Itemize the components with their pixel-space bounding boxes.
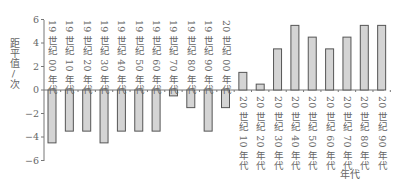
category-label: 19 世纪 00 年代 xyxy=(47,20,57,95)
category-label: 19 世纪 50 年代 xyxy=(134,20,144,95)
bar xyxy=(135,90,143,131)
category-label: 19 世纪 80 年代 xyxy=(186,20,196,95)
category-label: 20 世纪 80 年代 xyxy=(359,96,369,171)
category-label: 19 世纪 10 年代 xyxy=(64,20,74,95)
bar xyxy=(291,25,299,90)
category-label: 20 世纪 00 年代 xyxy=(221,20,231,95)
category-label: 20 世纪 20 年代 xyxy=(255,96,265,171)
bar xyxy=(378,25,386,90)
bar xyxy=(256,84,264,90)
bar xyxy=(274,49,282,90)
category-label: 20 世纪 60 年代 xyxy=(325,96,335,171)
y-tick-label: −2 xyxy=(15,108,39,119)
y-tick-label: 2 xyxy=(15,61,39,72)
chart xyxy=(0,0,396,188)
bar xyxy=(152,90,160,131)
category-label: 20 世纪 90 年代 xyxy=(377,96,387,171)
category-label: 19 世纪 20 年代 xyxy=(82,20,92,95)
bar xyxy=(326,49,334,90)
category-label: 20 世纪 50 年代 xyxy=(307,96,317,171)
category-label: 19 世纪 90 年代 xyxy=(203,20,213,95)
category-label: 20 世纪 10 年代 xyxy=(238,96,248,171)
bar xyxy=(204,90,212,131)
bar xyxy=(308,37,316,90)
y-tick-label: 4 xyxy=(15,37,39,48)
y-tick-label: 0 xyxy=(15,84,39,95)
category-label: 19 世纪 30 年代 xyxy=(99,20,109,95)
category-label: 20 世纪 70 年代 xyxy=(342,96,352,171)
category-label: 19 世纪 40 年代 xyxy=(116,20,126,95)
bar xyxy=(100,90,108,143)
category-label: 19 世纪 60 年代 xyxy=(151,20,161,95)
y-tick-label: −4 xyxy=(15,131,39,142)
bar xyxy=(48,90,56,143)
bar xyxy=(65,90,73,131)
bar xyxy=(239,72,247,90)
bar xyxy=(343,37,351,90)
y-tick-label: −6 xyxy=(15,155,39,166)
category-label: 19 世纪 70 年代 xyxy=(168,20,178,95)
bar xyxy=(360,25,368,90)
axes xyxy=(41,20,390,162)
category-label: 20 世纪 30 年代 xyxy=(273,96,283,171)
bar xyxy=(117,90,125,131)
y-tick-label: 6 xyxy=(15,14,39,25)
category-label: 20 世纪 40 年代 xyxy=(290,96,300,171)
bar xyxy=(83,90,91,131)
